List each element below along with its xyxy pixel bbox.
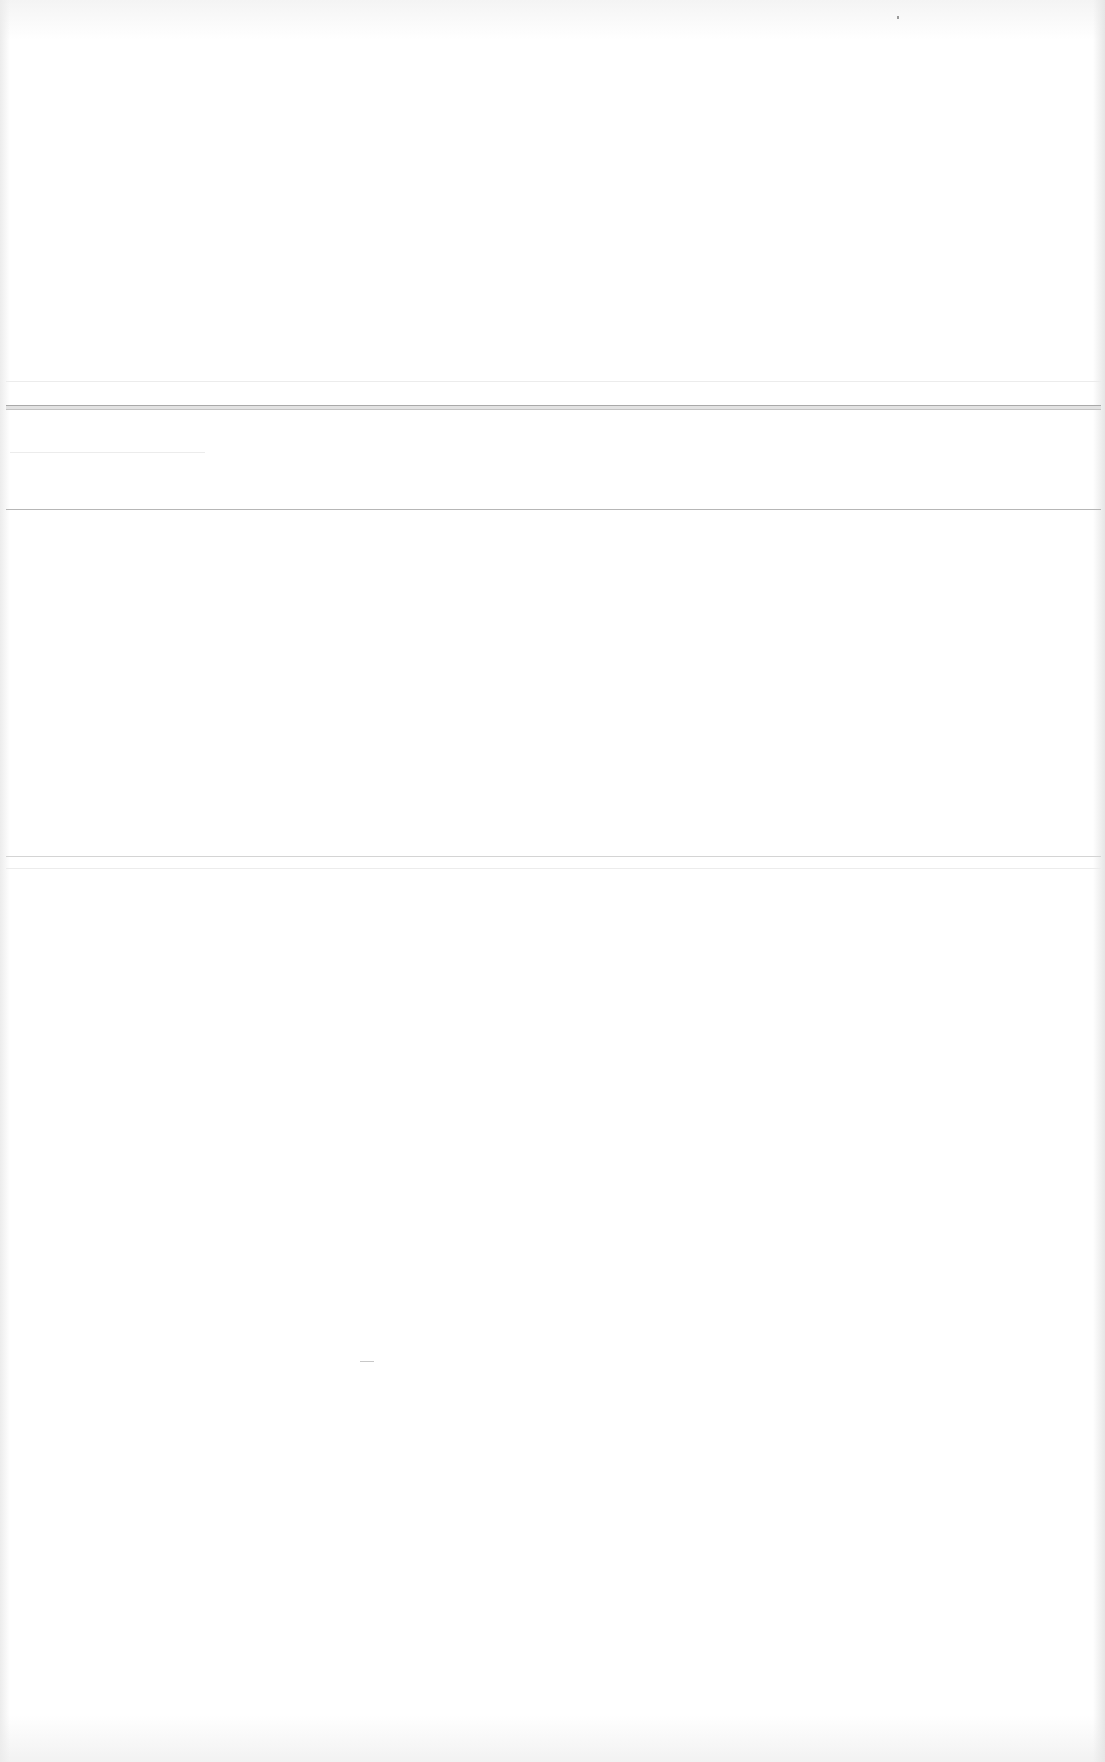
- double-rule: [6, 405, 1101, 410]
- scan-speck: [360, 1361, 374, 1362]
- section-rule-2: [6, 856, 1101, 857]
- blank-page: [0, 0, 1105, 1762]
- short-faint-rule: [10, 452, 205, 453]
- page-right-edge-shadow: [1093, 0, 1105, 1762]
- top-faint-rule: [6, 381, 1101, 382]
- scan-speck: [897, 16, 899, 19]
- section-rule-1: [6, 509, 1101, 510]
- page-left-edge-shadow: [0, 0, 10, 1762]
- section-rule-3-faint: [6, 868, 1101, 869]
